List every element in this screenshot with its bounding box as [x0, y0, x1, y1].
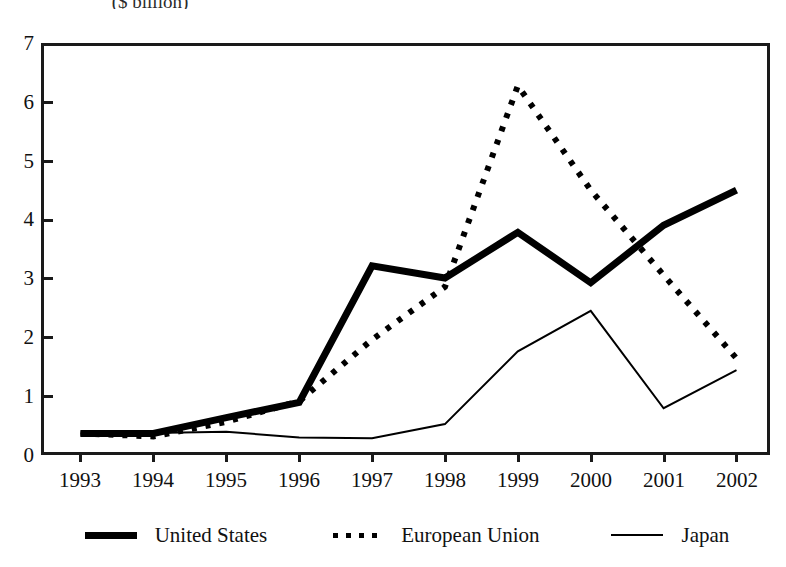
- x-axis-ticks: [81, 454, 737, 462]
- y-axis-ticks: [43, 103, 53, 397]
- axis-frame: [42, 43, 770, 455]
- legend-label-united-states: United States: [155, 523, 268, 548]
- legend-label-japan: Japan: [681, 523, 729, 548]
- chart-legend: United States European Union Japan: [42, 515, 770, 555]
- legend-swatch-dotted-icon: [329, 528, 385, 542]
- chart-figure: ($ billion) 7 6 5 4 3 2 1 0 1993 1994 19…: [0, 0, 786, 567]
- series-line-japan: [81, 311, 737, 438]
- legend-item-japan: Japan: [609, 523, 729, 548]
- series-line-european-union: [81, 86, 737, 437]
- plot-area: [0, 0, 786, 567]
- legend-item-european-union: European Union: [329, 523, 539, 548]
- legend-swatch-thick-solid-icon: [83, 528, 139, 542]
- legend-item-united-states: United States: [83, 523, 268, 548]
- legend-label-european-union: European Union: [401, 523, 539, 548]
- legend-swatch-thin-solid-icon: [609, 528, 665, 542]
